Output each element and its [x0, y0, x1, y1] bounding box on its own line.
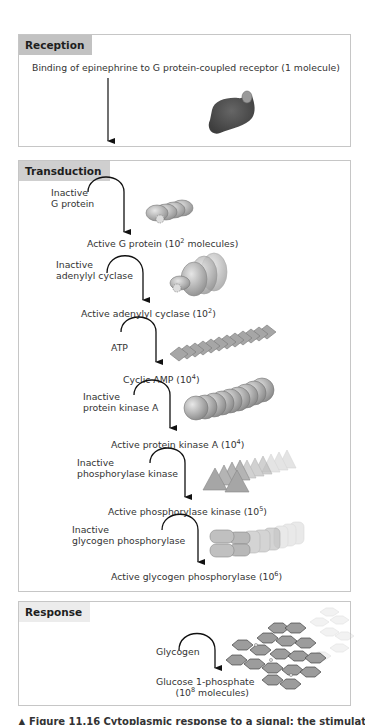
active-phosphorylase-kinase-label: Active phosphorylase kinase (105)	[108, 506, 267, 517]
inactive-adenylyl-cyclase-label: Inactive adenylyl cyclase	[56, 259, 133, 281]
figure-caption: ▲ Figure 11.16 Cytoplasmic response to a…	[18, 716, 365, 725]
response-header: Response	[19, 602, 90, 622]
active-g-protein-label: Active G protein (102 molecules)	[87, 238, 238, 249]
active-adenylyl-cyclase-label: Active adenylyl cyclase (102)	[81, 308, 216, 319]
transduction-panel: Transduction Inactive G protein Active G…	[18, 160, 351, 592]
reception-panel: Reception Binding of epinephrine to G pr…	[18, 34, 351, 147]
inactive-protein-kinase-a-label: Inactive protein kinase A	[83, 391, 158, 413]
atp-label: ATP	[111, 342, 128, 353]
active-glycogen-phosphorylase-label: Active glycogen phosphorylase (106)	[111, 571, 282, 582]
inactive-phosphorylase-kinase-label: Inactive phosphorylase kinase	[77, 457, 178, 479]
active-protein-kinase-a-label: Active protein kinase A (104)	[111, 439, 244, 450]
response-panel: Response Glycogen Glucose 1-phosphate (1…	[18, 601, 351, 706]
reception-description: Binding of epinephrine to G protein-coup…	[32, 62, 340, 73]
cyclic-amp-label: Cyclic AMP (104)	[123, 374, 200, 385]
glycogen-label: Glycogen	[156, 646, 200, 657]
inactive-glycogen-phosphorylase-label: Inactive glycogen phosphorylase	[72, 524, 185, 546]
inactive-g-protein-label: Inactive G protein	[51, 187, 94, 209]
transduction-header: Transduction	[19, 161, 110, 181]
reception-header: Reception	[19, 35, 92, 55]
glucose-1-phosphate-label: Glucose 1-phosphate (108 molecules)	[156, 676, 254, 698]
